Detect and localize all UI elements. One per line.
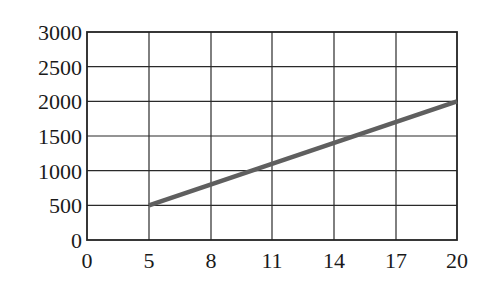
x-tick-label: 20 bbox=[446, 248, 468, 273]
y-tick-label: 1000 bbox=[38, 159, 82, 184]
y-tick-label: 2500 bbox=[38, 55, 82, 80]
x-tick-label: 14 bbox=[323, 248, 345, 273]
series-line bbox=[149, 101, 457, 205]
x-tick-label: 5 bbox=[144, 248, 155, 273]
y-tick-label: 0 bbox=[71, 228, 82, 253]
x-tick-label: 17 bbox=[385, 248, 407, 273]
y-axis-tick-labels: 050010001500200025003000 bbox=[38, 20, 82, 253]
data-series bbox=[149, 101, 457, 205]
y-tick-label: 500 bbox=[49, 193, 82, 218]
y-tick-label: 2000 bbox=[38, 89, 82, 114]
x-tick-label: 11 bbox=[261, 248, 282, 273]
x-axis-tick-labels: 05811141720 bbox=[82, 248, 469, 273]
x-tick-label: 8 bbox=[206, 248, 217, 273]
x-tick-label: 0 bbox=[82, 248, 93, 273]
line-chart: 050010001500200025003000 05811141720 bbox=[0, 0, 483, 287]
y-tick-label: 3000 bbox=[38, 20, 82, 45]
y-tick-label: 1500 bbox=[38, 124, 82, 149]
